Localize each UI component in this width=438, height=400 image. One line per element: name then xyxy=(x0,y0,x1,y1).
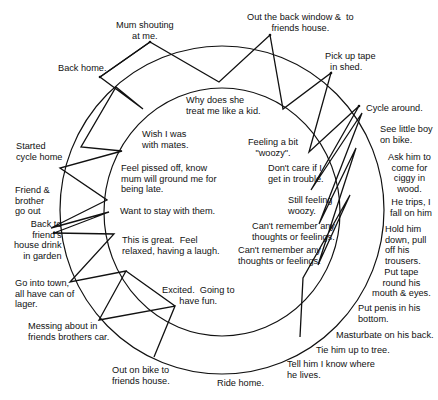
inner-feeling-label: Don't care if I get in trouble. xyxy=(268,163,324,184)
outer-event-label: Put penis in his bottom. xyxy=(358,303,420,324)
outer-event-label: See little boy on bike. xyxy=(380,124,433,145)
inner-feeling-label: Can't remember any thoughts or feelings. xyxy=(252,221,335,242)
outer-event-label: Back to friend's house drink in garden xyxy=(14,219,62,261)
inner-feeling-label: Excited. Going to have fun. xyxy=(162,285,235,306)
inner-feeling-label: Want to stay with them. xyxy=(120,206,215,217)
outer-event-label: Cycle around. xyxy=(366,103,423,114)
inner-feeling-label: Can't remember any thoughts or feelings. xyxy=(238,245,321,266)
inner-feeling-label: Feeling a bit "woozy". xyxy=(248,137,298,158)
outer-event-label: Out the back window & to friends house. xyxy=(247,12,354,33)
outer-event-label: Hold him down, pull off his trousers. xyxy=(385,224,426,266)
inner-feeling-label: This is great. Feel relaxed, having a la… xyxy=(122,235,220,256)
outer-event-label: Friend & brother go out xyxy=(15,185,50,217)
outer-event-label: Masturbate on his back. xyxy=(336,330,434,341)
outer-event-label: Go into town, all have can of lager. xyxy=(15,278,74,310)
outer-event-label: Started cycle home xyxy=(16,141,62,162)
inner-feeling-label: Wish I was with mates. xyxy=(142,129,188,150)
inner-feeling-label: Feel pissed off, know mum will ground me… xyxy=(121,163,216,195)
outer-event-label: He trips, I fall on him xyxy=(390,197,432,218)
outer-event-label: Back home. xyxy=(58,63,107,74)
outer-event-label: Tie him up to tree. xyxy=(316,345,390,356)
outer-event-label: Mum shouting at me. xyxy=(116,20,174,41)
outer-event-label: Pick up tape in shed. xyxy=(325,51,376,72)
outer-event-label: Put tape round his mouth & eyes. xyxy=(372,267,431,299)
inner-feeling-label: Why does she treat me like a kid. xyxy=(186,95,261,116)
inner-feeling-label: Still feeling woozy. xyxy=(288,195,332,216)
outer-event-label: Messing about in friends brothers car. xyxy=(28,321,109,342)
outer-event-label: Tell him I know where he lives. xyxy=(287,359,375,380)
outer-event-label: Ride home. xyxy=(217,378,264,389)
outer-event-label: Ask him to come for ciggy in wood. xyxy=(388,152,431,194)
outer-event-label: Out on bike to friends house. xyxy=(112,365,170,386)
